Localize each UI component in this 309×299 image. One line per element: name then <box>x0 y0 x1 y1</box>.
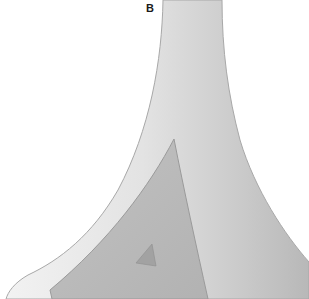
panel-label: B <box>146 2 154 14</box>
illustration <box>0 0 309 299</box>
